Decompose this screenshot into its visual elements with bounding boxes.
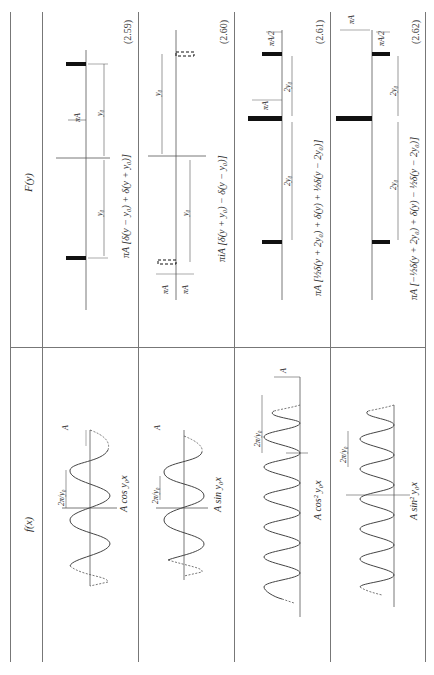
header-f-of-x: f(x) bbox=[22, 517, 34, 532]
label-y0-pos: y₀ bbox=[153, 89, 162, 97]
sine-squared-wave-diagram: 2π/y₀ bbox=[330, 395, 426, 675]
label-amplitude-A: A bbox=[153, 425, 162, 431]
delta-pair-diagram: πA y₀ y₀ bbox=[42, 30, 138, 330]
label-pi-A-half: πA/2 bbox=[267, 31, 276, 46]
cosine-squared-wave-diagram: A 2π/y₀ bbox=[234, 385, 330, 675]
label-pi-A: πA bbox=[261, 101, 270, 110]
label-y0-neg: y₀ bbox=[95, 209, 104, 217]
label-period: 2π/y₀ bbox=[253, 430, 262, 447]
table-border-left bbox=[10, 12, 11, 662]
delta-pair-diagram: y₀ y₀ πA πA bbox=[138, 10, 234, 310]
label-y0-neg: y₀ bbox=[181, 209, 190, 217]
label-y0-pos: y₀ bbox=[95, 109, 104, 117]
label-2y0-pos: 2y₀ bbox=[283, 81, 292, 92]
label-amplitude-A: A bbox=[61, 425, 70, 431]
sine-wave-diagram: A 2π/y₀ bbox=[138, 400, 234, 630]
delta-triplet-diagram: πA/2 πA 2y₀ 2y₀ bbox=[234, 10, 330, 310]
label-period: 2π/y₀ bbox=[151, 487, 160, 504]
label-amplitude-A: A bbox=[279, 368, 288, 374]
label-pi-A: πA bbox=[73, 113, 82, 122]
label-period: 2π/y₀ bbox=[339, 446, 348, 463]
label-period: 2π/y₀ bbox=[57, 489, 66, 506]
label-pi-A-half: πA/2 bbox=[377, 31, 386, 46]
label-pi-A-pos: πA bbox=[181, 285, 190, 294]
label-pi-A-neg: πA bbox=[161, 285, 170, 294]
label-pi-A: πA bbox=[347, 15, 356, 24]
delta-triplet-diagram: πA/2 πA 2y₀ 2y₀ bbox=[330, 10, 426, 310]
label-2y0-pos: 2y₀ bbox=[389, 85, 398, 96]
label-2y0-neg: 2y₀ bbox=[389, 179, 398, 190]
cosine-wave-diagram: A 2π/y₀ bbox=[42, 400, 138, 630]
header-F-of-y: F(y) bbox=[22, 173, 34, 192]
column-divider-f-F bbox=[10, 347, 426, 348]
label-2y0-neg: 2y₀ bbox=[283, 175, 292, 186]
